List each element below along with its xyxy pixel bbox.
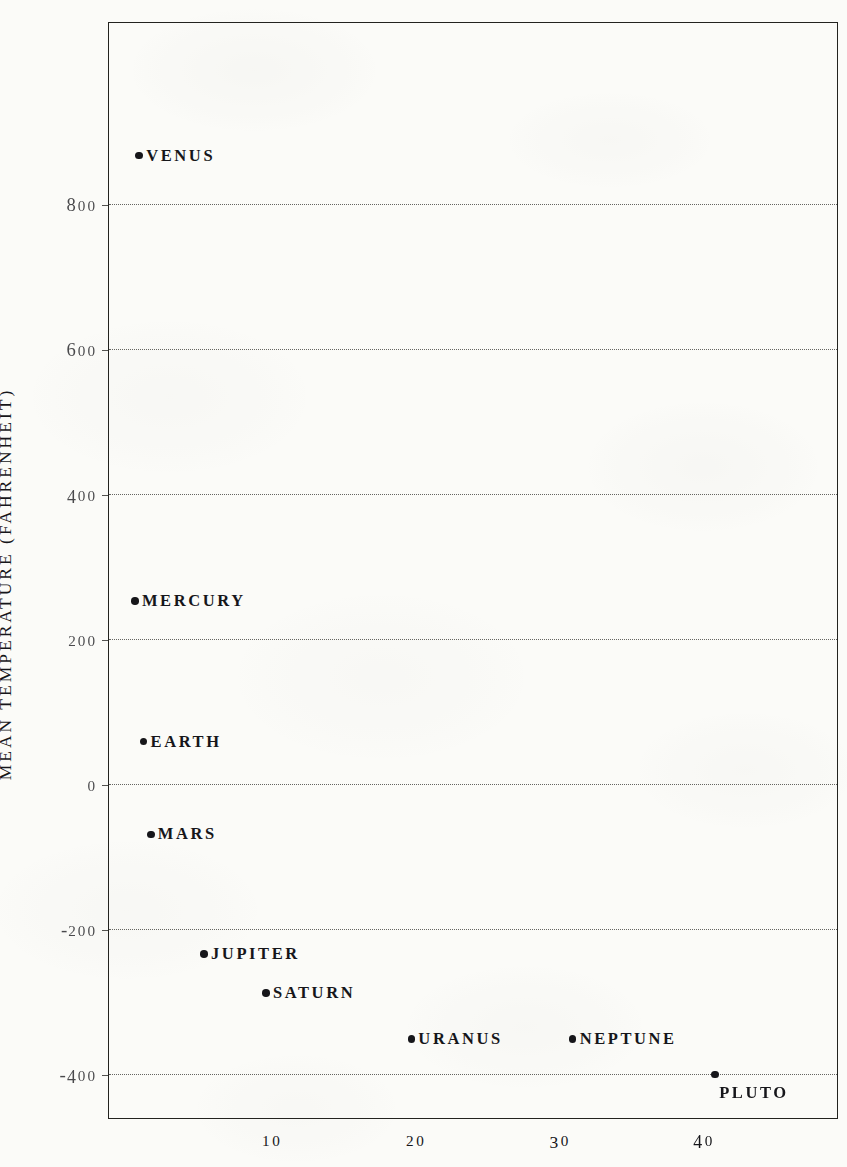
point-label-neptune: NEPTUNE	[580, 1029, 677, 1049]
x-tick-label-40: 40	[693, 1129, 715, 1151]
point-label-earth: EARTH	[151, 732, 222, 752]
point-marker-icon	[135, 152, 143, 160]
figure-page: MEAN TEMPERATURE (FAHRENHEIT) 8006004002…	[0, 0, 847, 1167]
gridline-y--200: -200	[109, 929, 837, 930]
y-tick-mark-800	[102, 205, 109, 206]
point-marker-icon	[131, 597, 139, 605]
gridline-y-800: 800	[109, 204, 837, 205]
y-axis-title: MEAN TEMPERATURE (FAHRENHEIT)	[0, 387, 16, 780]
gridline-y--400: -400	[109, 1074, 837, 1075]
y-tick-mark-400	[102, 495, 109, 496]
y-tick-mark-0	[102, 785, 109, 786]
y-tick-mark-200	[102, 640, 109, 641]
point-label-saturn: SATURN	[273, 983, 355, 1003]
y-tick-label-600: 600	[67, 339, 98, 361]
point-marker-icon	[569, 1035, 577, 1043]
point-marker-icon	[200, 950, 208, 958]
point-marker-icon	[262, 989, 270, 997]
point-label-venus: VENUS	[146, 146, 215, 166]
y-tick-label--400: -400	[60, 1064, 97, 1086]
y-tick-label-200: 200	[68, 629, 97, 651]
y-tick-label--200: -200	[61, 919, 97, 941]
x-tick-label-10: 10	[262, 1129, 282, 1151]
point-label-mercury: MERCURY	[142, 591, 246, 611]
y-tick-label-800: 800	[67, 194, 98, 216]
point-marker-icon	[140, 738, 148, 746]
point-marker-icon	[147, 831, 155, 839]
gridline-y-200: 200	[109, 639, 837, 640]
y-tick-mark-600	[102, 350, 109, 351]
y-tick-label-400: 400	[67, 484, 97, 506]
point-label-jupiter: JUPITER	[211, 944, 300, 964]
point-label-uranus: URANUS	[418, 1029, 502, 1049]
gridline-y-0: 0	[109, 784, 837, 785]
gridline-y-600: 600	[109, 349, 837, 350]
gridline-y-400: 400	[109, 494, 837, 495]
x-tick-label-30: 30	[549, 1129, 570, 1151]
point-marker-icon	[711, 1071, 719, 1079]
point-marker-icon	[408, 1035, 416, 1043]
x-tick-label-20: 20	[406, 1129, 426, 1151]
plot-frame: 8006004002000-200-400 VENUSMERCURYEARTHM…	[108, 22, 838, 1119]
y-tick-mark--400	[102, 1075, 109, 1076]
point-label-mars: MARS	[158, 824, 217, 844]
y-tick-mark--200	[102, 930, 109, 931]
point-label-pluto: PLUTO	[719, 1083, 789, 1103]
y-tick-label-0: 0	[87, 774, 97, 796]
